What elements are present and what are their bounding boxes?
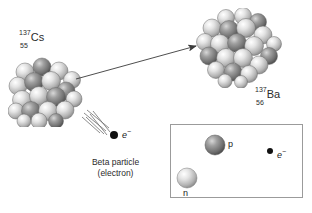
inset-neutron: [176, 167, 198, 189]
barium-137-nucleus: [196, 8, 282, 88]
barium-symbol: Ba: [267, 88, 280, 100]
inset-neutron-label: n: [183, 188, 188, 198]
barium-mass-number: 137: [255, 86, 267, 93]
beta-particle-symbol: e−: [122, 128, 131, 140]
beta-particle-dot: [110, 131, 118, 139]
inset-proton-label: p: [228, 139, 233, 149]
barium-isotope-label: 137Ba 56: [255, 84, 280, 106]
inset-electron-label: e−: [277, 148, 286, 160]
beta-charge-sign: −: [127, 128, 131, 135]
beta-decay-figure: 137Cs 55 13: [0, 0, 312, 213]
caesium-isotope-label: 137Cs 55: [19, 27, 44, 49]
caesium-symbol: Cs: [31, 31, 44, 43]
decay-arrow: [76, 46, 196, 79]
caption-line-2: (electron): [98, 168, 134, 178]
inset-electron-charge: −: [282, 148, 286, 155]
caesium-mass-number: 137: [19, 29, 31, 36]
caesium-137-nucleus: [8, 55, 88, 127]
beta-particle-caption: Beta particle (electron): [63, 157, 168, 179]
caption-line-1: Beta particle: [92, 157, 139, 167]
inset-electron-dot: [267, 148, 273, 154]
inset-proton: [204, 134, 226, 156]
